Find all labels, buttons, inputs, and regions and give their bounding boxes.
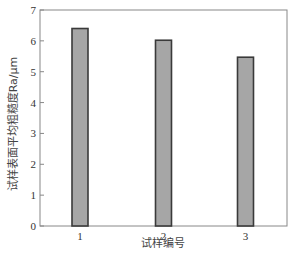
y-tick-label: 3 [31,127,37,139]
x-axis-title: 试样编号 [141,236,185,250]
y-tick-label: 5 [31,66,37,78]
bar-sample-1 [72,29,88,226]
x-tick-label: 3 [243,230,249,242]
bar-sample-3 [238,57,254,226]
bars [72,29,254,226]
y-tick-label: 7 [31,4,37,16]
y-axis-title: 试样表面平均粗糙度Ra/μm [6,57,20,192]
y-tick-label: 4 [31,97,37,109]
y-tick-label: 6 [31,35,37,47]
x-tick-label: 1 [77,230,83,242]
y-tick-label: 1 [31,189,37,201]
y-axis-ticks: 01234567 [31,4,45,232]
y-tick-label: 2 [31,158,37,170]
bar-chart: 01234567 123 试样编号 试样表面平均粗糙度Ra/μm [0,0,295,262]
y-tick-label: 0 [31,220,37,232]
bar-sample-2 [156,40,172,226]
